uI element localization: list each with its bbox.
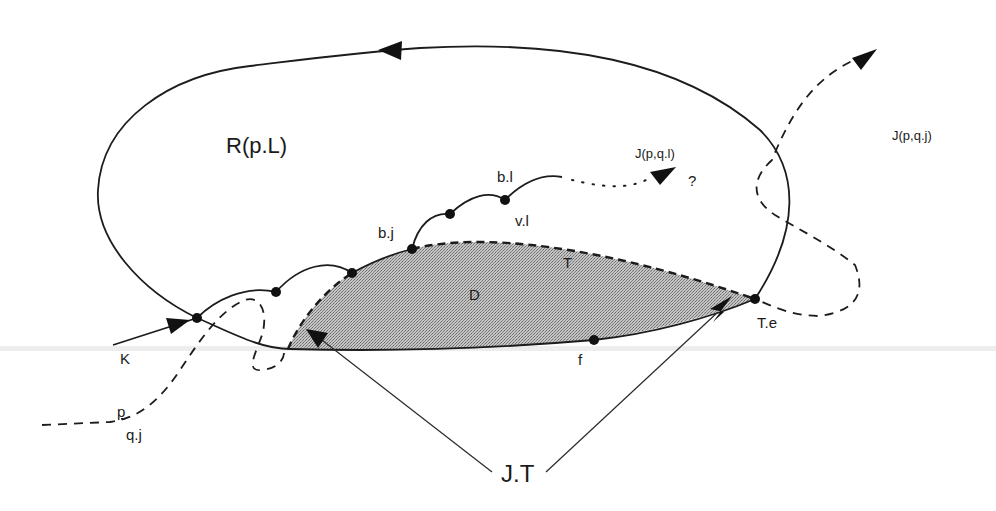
arc-chain-upper — [412, 176, 562, 249]
label-t: T — [563, 254, 572, 271]
point-t-e — [750, 294, 760, 304]
path-jpqj-right — [755, 55, 865, 316]
label-v-l: v.l — [515, 212, 529, 229]
chain-point-2 — [347, 268, 357, 278]
dotted-path-jpql — [572, 178, 650, 186]
entry-point — [192, 313, 202, 323]
point-f — [589, 335, 599, 345]
path-p-qj-left — [42, 299, 284, 425]
jt-pointer-left — [318, 337, 492, 472]
label-j-pqj: J(p,q.j) — [892, 128, 932, 143]
k-arrow-icon — [166, 318, 190, 334]
chain-point-3 — [445, 209, 455, 219]
label-j-t: J.T — [501, 460, 535, 487]
label-r-pl: R(p.L) — [226, 133, 287, 158]
label-d: D — [469, 286, 480, 303]
label-question: ? — [688, 172, 696, 189]
label-f: f — [578, 351, 583, 368]
jpqj-arrow-icon — [852, 49, 877, 70]
point-b-j — [407, 244, 417, 254]
diagram-canvas: R(p.L) D T b.j b.l v.l f T.e K p q.j J(p… — [0, 0, 996, 511]
jpql-arrow-icon — [650, 167, 676, 185]
shaded-region-d — [288, 242, 755, 350]
label-t-e: T.e — [757, 314, 777, 331]
label-b-j: b.j — [378, 224, 394, 241]
point-v-l — [500, 195, 510, 205]
loop-direction-arrow-icon — [378, 41, 402, 60]
label-b-l: b.l — [497, 168, 513, 185]
label-k: K — [120, 350, 130, 367]
label-q-j: q.j — [126, 426, 142, 443]
label-j-pql: J(p,q.l) — [635, 146, 675, 161]
chain-point-1 — [271, 287, 281, 297]
label-p: p — [117, 403, 125, 420]
